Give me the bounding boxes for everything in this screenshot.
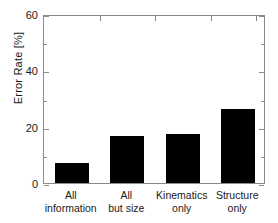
y-axis-minor-tick	[44, 44, 47, 45]
y-axis-tick-right	[259, 16, 264, 17]
plot-box	[43, 15, 265, 184]
y-axis-tick	[44, 129, 49, 130]
y-axis-tick-right	[259, 129, 264, 130]
y-axis-tick	[44, 185, 49, 186]
y-axis-minor-tick-right	[261, 44, 264, 45]
plot-area	[44, 16, 264, 183]
y-axis-tick-label: 40	[0, 65, 38, 77]
y-axis-minor-tick	[44, 157, 47, 158]
y-axis-tick-label: 60	[0, 9, 38, 21]
x-axis-top-tick	[100, 16, 101, 21]
bar-chart-figure: Error Rate [%] 0204060 All informationAl…	[0, 0, 278, 223]
y-axis-tick	[44, 16, 49, 17]
y-axis-tick-label: 20	[0, 122, 38, 134]
bar	[166, 134, 200, 183]
y-axis-tick-label: 0	[0, 178, 38, 190]
y-axis-minor-tick-right	[261, 157, 264, 158]
y-axis-minor-tick-right	[261, 101, 264, 102]
bar	[221, 109, 255, 183]
x-axis-tick-label: Structure only	[204, 189, 272, 214]
y-axis-tick-right	[259, 72, 264, 73]
y-axis-minor-tick	[44, 101, 47, 102]
x-axis-top-tick	[211, 16, 212, 21]
x-axis-top-tick	[256, 16, 257, 21]
y-axis-tick	[44, 72, 49, 73]
bar	[110, 136, 144, 183]
bar	[55, 163, 89, 183]
x-axis-top-tick	[155, 16, 156, 21]
y-axis-tick-right	[259, 185, 264, 186]
